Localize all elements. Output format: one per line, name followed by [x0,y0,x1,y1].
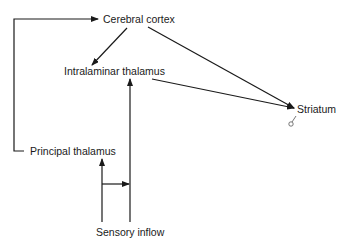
diagram-connections [0,0,351,242]
edge-principal-to-cortex [14,19,98,151]
node-principal-thalamus: Principal thalamus [30,145,116,157]
node-cerebral-cortex: Cerebral cortex [103,13,175,25]
edge-cortex-to-striatum [148,27,294,108]
node-sensory-inflow: Sensory inflow [96,226,164,238]
node-striatum: Striatum [297,103,336,115]
edge-cortex-to-intralaminar [92,28,127,65]
striatum-output-line [292,116,296,122]
diagram: Cerebral cortex Intralaminar thalamus St… [0,0,351,242]
striatum-output-terminal-icon [289,122,293,126]
node-intralaminar-thalamus: Intralaminar thalamus [64,65,165,77]
edge-intralaminar-to-striatum [152,79,294,108]
